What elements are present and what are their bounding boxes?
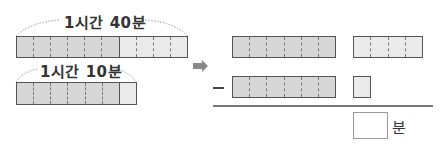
bar-cell <box>284 77 301 97</box>
bar-cell <box>50 83 67 104</box>
bar-cell <box>318 37 335 57</box>
answer-unit-label: 분 <box>392 116 406 137</box>
bar-cell <box>170 37 187 57</box>
bar-cell <box>119 83 136 104</box>
bar-cell <box>33 83 50 104</box>
bar-cell <box>405 37 422 57</box>
bar-cell <box>17 37 33 57</box>
bottom-duration-label: 1시간 10분 <box>40 60 122 81</box>
bar-cell <box>17 83 33 104</box>
top-duration-label: 1시간 40분 <box>64 11 146 32</box>
bar-cell <box>85 83 102 104</box>
bar-cell <box>102 83 119 104</box>
minus-sign <box>213 87 224 89</box>
right-arrow-icon <box>193 60 209 72</box>
row2-minute-bar <box>353 76 371 98</box>
bar-cell <box>284 37 301 57</box>
bar-cell <box>233 37 249 57</box>
bar-cell <box>136 37 153 57</box>
bar-cell <box>67 83 84 104</box>
bar-cell <box>354 77 370 97</box>
bar-cell <box>301 37 318 57</box>
bar-cell <box>67 37 84 57</box>
bar-cell <box>33 37 50 57</box>
bar-cell <box>101 37 118 57</box>
bar-cell <box>370 37 387 57</box>
bar-cell <box>153 37 170 57</box>
bar-cell <box>301 77 318 97</box>
bar-cell <box>249 77 266 97</box>
row1-hour-bar <box>232 36 336 58</box>
answer-input-box[interactable] <box>353 112 388 139</box>
bar-cell <box>233 77 249 97</box>
bar-cell <box>388 37 405 57</box>
bar-cell <box>318 77 335 97</box>
bar-cell <box>266 37 283 57</box>
bar-cell <box>50 37 67 57</box>
bottom-time-bar <box>16 82 137 105</box>
result-line <box>213 105 433 107</box>
bar-cell <box>249 37 266 57</box>
bar-cell <box>354 37 370 57</box>
row1-minute-bar <box>353 36 423 58</box>
top-time-bar <box>16 36 188 58</box>
row2-hour-bar <box>232 76 336 98</box>
bar-cell <box>266 77 283 97</box>
bar-cell <box>119 37 136 57</box>
bar-cell <box>84 37 101 57</box>
